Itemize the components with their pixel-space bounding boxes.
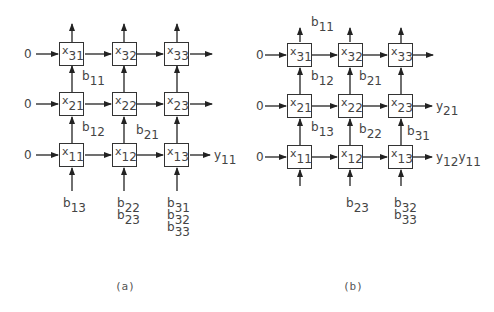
cell-sub: 21 <box>69 99 84 113</box>
sub: 31 <box>415 129 430 143</box>
row-input-2: 0 <box>256 100 264 112</box>
sub: 13 <box>319 125 334 139</box>
row-input-1: 0 <box>24 149 32 161</box>
cell-x31: x31 <box>287 43 312 67</box>
row-input-3: 0 <box>256 49 264 61</box>
label-b13: b13 <box>311 121 334 138</box>
label-b22: b22 <box>359 123 382 140</box>
cell-sub: 23 <box>174 99 189 113</box>
cell-sub: 21 <box>297 101 312 115</box>
sub: 11 <box>466 155 481 169</box>
sub: 11 <box>221 153 236 167</box>
cell-sub: 12 <box>122 150 137 164</box>
sub: 13 <box>71 201 86 215</box>
caption-a: (a) <box>115 280 135 293</box>
sub: 22 <box>367 127 382 141</box>
sub: 12 <box>443 155 458 169</box>
var: b <box>82 120 90 134</box>
label-b33: b33 <box>167 221 190 238</box>
cell-sub: 11 <box>69 150 84 164</box>
var: b <box>407 124 415 138</box>
var: b <box>311 120 319 134</box>
cell-sub: 33 <box>398 50 413 64</box>
label-b31: b31 <box>407 125 430 142</box>
var: b <box>167 220 175 234</box>
caption-b: (b) <box>343 280 363 293</box>
cell-x31: x31 <box>59 42 84 66</box>
cell-x33: x33 <box>164 42 189 66</box>
var: b <box>359 122 367 136</box>
cell-x23: x23 <box>164 92 189 116</box>
cell-sub: 31 <box>297 50 312 64</box>
cell-x22: x22 <box>338 94 363 118</box>
sub: 23 <box>354 201 369 215</box>
var: b <box>394 208 402 222</box>
sub: 33 <box>402 213 417 227</box>
row-input-1: 0 <box>256 151 264 163</box>
var: b <box>359 69 367 83</box>
label-b23: b23 <box>346 197 369 214</box>
cell-sub: 32 <box>122 49 137 63</box>
label-b21: b21 <box>136 124 159 141</box>
label-y11: y11 <box>214 149 236 166</box>
var: b <box>136 123 144 137</box>
label-b13: b13 <box>63 197 86 214</box>
cell-x22: x22 <box>112 92 137 116</box>
label-b21: b21 <box>359 70 382 87</box>
cell-x32: x32 <box>112 42 137 66</box>
cell-x21: x21 <box>287 94 312 118</box>
cell-x33: x33 <box>388 43 413 67</box>
cell-sub: 22 <box>348 101 363 115</box>
cell-x12: x12 <box>112 143 137 167</box>
cell-x13: x13 <box>388 145 413 169</box>
cell-sub: 13 <box>398 152 413 166</box>
cell-x32: x32 <box>338 43 363 67</box>
sub: 23 <box>125 213 140 227</box>
var: b <box>117 208 125 222</box>
label-b12: b12 <box>311 70 334 87</box>
label-b23: b23 <box>117 209 140 226</box>
cell-sub: 23 <box>398 101 413 115</box>
var: b <box>82 69 90 83</box>
sub: 21 <box>367 74 382 88</box>
sub: 21 <box>443 104 458 118</box>
label-b33: b33 <box>394 209 417 226</box>
var: b <box>311 69 319 83</box>
label-b12: b12 <box>82 121 105 138</box>
label-y12-y11: y12y11 <box>436 151 481 168</box>
sub: 12 <box>319 74 334 88</box>
cell-x23: x23 <box>388 94 413 118</box>
cell-x13: x13 <box>164 143 189 167</box>
label-b11: b11 <box>82 70 105 87</box>
cell-x11: x11 <box>59 143 84 167</box>
cell-sub: 11 <box>297 152 312 166</box>
cell-x12: x12 <box>338 145 363 169</box>
var: b <box>311 15 319 29</box>
cell-sub: 13 <box>174 150 189 164</box>
cell-x11: x11 <box>287 145 312 169</box>
sub: 12 <box>90 125 105 139</box>
sub: 33 <box>175 225 190 239</box>
cell-sub: 32 <box>348 50 363 64</box>
label-b11: b11 <box>311 16 334 33</box>
cell-sub: 12 <box>348 152 363 166</box>
sub: 11 <box>319 20 334 34</box>
sub: 21 <box>144 128 159 142</box>
cell-x21: x21 <box>59 92 84 116</box>
cell-sub: 22 <box>122 99 137 113</box>
cell-sub: 31 <box>69 49 84 63</box>
row-input-2: 0 <box>24 98 32 110</box>
row-input-3: 0 <box>24 48 32 60</box>
cell-sub: 33 <box>174 49 189 63</box>
var: b <box>346 196 354 210</box>
sub: 11 <box>90 74 105 88</box>
var: y <box>458 150 465 164</box>
label-y21: y21 <box>436 100 458 117</box>
var: b <box>63 196 71 210</box>
